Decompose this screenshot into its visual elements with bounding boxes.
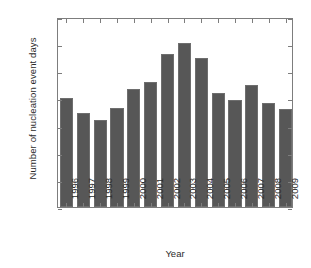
x-tick-label: 2000 xyxy=(137,178,148,212)
x-tick-label: 2003 xyxy=(187,178,198,212)
x-tick-mark xyxy=(117,203,118,207)
x-tick-mark-top xyxy=(184,19,185,23)
x-tick-label: 1997 xyxy=(86,178,97,212)
x-tick-mark xyxy=(269,203,270,207)
y-tick-mark-right xyxy=(288,128,292,129)
y-tick-mark-right xyxy=(288,46,292,47)
x-tick-mark-top xyxy=(235,19,236,23)
y-tick-mark xyxy=(58,209,62,210)
x-tick-label: 1998 xyxy=(103,178,114,212)
x-tick-mark-top xyxy=(83,19,84,23)
x-tick-label: 2007 xyxy=(255,178,266,212)
y-tick-mark xyxy=(58,73,62,74)
x-tick-mark-top xyxy=(134,19,135,23)
x-tick-label: 2006 xyxy=(238,178,249,212)
x-tick-mark xyxy=(201,203,202,207)
x-tick-mark-top xyxy=(168,19,169,23)
x-tick-label: 2005 xyxy=(221,178,232,212)
x-tick-mark-top xyxy=(286,19,287,23)
x-tick-mark xyxy=(100,203,101,207)
x-tick-label: 2002 xyxy=(171,178,182,212)
x-tick-mark-top xyxy=(151,19,152,23)
x-tick-mark-top xyxy=(100,19,101,23)
x-tick-mark xyxy=(235,203,236,207)
y-tick-mark xyxy=(58,19,62,20)
x-tick-label: 1999 xyxy=(120,178,131,212)
x-axis-title: Year xyxy=(57,248,293,259)
x-tick-label: 2004 xyxy=(204,178,215,212)
x-tick-mark xyxy=(286,203,287,207)
x-tick-mark xyxy=(66,203,67,207)
y-tick-mark xyxy=(58,182,62,183)
x-tick-label: 2009 xyxy=(289,178,300,212)
x-tick-mark xyxy=(134,203,135,207)
x-tick-mark-top xyxy=(252,19,253,23)
x-tick-mark-top xyxy=(218,19,219,23)
y-tick-mark-right xyxy=(288,73,292,74)
x-tick-mark xyxy=(218,203,219,207)
y-tick-mark xyxy=(58,128,62,129)
y-axis-title: Number of nucleation event days xyxy=(27,14,38,204)
x-tick-mark-top xyxy=(66,19,67,23)
y-tick-mark xyxy=(58,100,62,101)
x-tick-label: 2008 xyxy=(272,178,283,212)
x-tick-label: 1996 xyxy=(69,178,80,212)
x-tick-label: 2001 xyxy=(154,178,165,212)
y-tick-mark-right xyxy=(288,100,292,101)
x-tick-mark-top xyxy=(269,19,270,23)
x-tick-mark xyxy=(151,203,152,207)
x-tick-mark-top xyxy=(201,19,202,23)
x-tick-mark xyxy=(83,203,84,207)
x-tick-mark xyxy=(184,203,185,207)
y-tick-mark-right xyxy=(288,155,292,156)
figure: Number of nucleation event days Year 020… xyxy=(0,0,311,268)
y-tick-mark-right xyxy=(288,19,292,20)
x-tick-mark-top xyxy=(117,19,118,23)
y-tick-mark xyxy=(58,155,62,156)
x-tick-mark xyxy=(252,203,253,207)
y-tick-mark xyxy=(58,46,62,47)
x-tick-mark xyxy=(168,203,169,207)
